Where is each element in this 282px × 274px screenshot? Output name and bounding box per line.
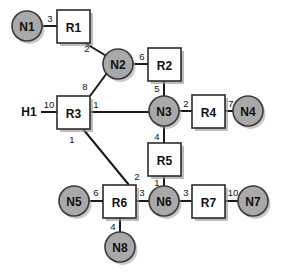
port-label-p-r4-2: 2	[183, 98, 188, 109]
router-R2: R2	[148, 48, 184, 84]
port-label-p-r2-5: 5	[154, 83, 159, 94]
router-label: R1	[66, 21, 82, 35]
router-R1: R1	[57, 10, 93, 46]
hosts-layer: H1	[21, 105, 37, 119]
node-N1: N1	[12, 11, 45, 44]
port-label-p-r6-4: 4	[110, 221, 115, 232]
router-label: R2	[157, 59, 173, 73]
node-N4: N4	[233, 96, 266, 129]
port-label-p-r3-1: 1	[93, 99, 98, 110]
port-label-p-r6-6: 6	[93, 187, 98, 198]
port-label-p-r4-7: 7	[228, 98, 233, 109]
node-label: N8	[112, 241, 128, 255]
port-label-p-r2-6: 6	[139, 51, 144, 62]
port-label-p-r7-3: 3	[183, 187, 188, 198]
router-R6: R6	[103, 185, 139, 221]
node-label: N6	[156, 195, 172, 209]
network-topology-diagram: R1R2R3R4R5R6R7 N1N2N3N4N5N6N7N8 H1 32658…	[0, 0, 282, 274]
router-R3: R3	[57, 96, 93, 132]
port-label-p-r1-2: 2	[84, 43, 89, 54]
node-N3: N3	[149, 96, 182, 129]
router-R4: R4	[192, 95, 228, 131]
node-N2: N2	[103, 49, 136, 82]
link-R3-R6	[83, 129, 129, 185]
port-label-p-r7-10: 10	[228, 187, 239, 198]
node-label: N3	[156, 105, 172, 119]
node-label: N7	[245, 195, 261, 209]
port-label-p-r5-1: 1	[154, 177, 159, 188]
router-R5: R5	[148, 143, 184, 179]
node-N6: N6	[149, 186, 182, 219]
topology-canvas: R1R2R3R4R5R6R7 N1N2N3N4N5N6N7N8 H1 32658…	[0, 0, 282, 274]
port-label-p-r1-3: 3	[47, 13, 52, 24]
node-label: N2	[110, 58, 126, 72]
port-label-p-r3-10: 10	[44, 99, 55, 110]
port-label-p-r6-2: 2	[134, 171, 139, 182]
port-label-p-r6-3: 3	[139, 187, 144, 198]
link-N2-R3	[90, 73, 107, 96]
node-N7: N7	[238, 186, 271, 219]
node-label: N1	[19, 20, 35, 34]
host-label-H1: H1	[21, 105, 37, 119]
node-label: N5	[66, 195, 82, 209]
router-label: R6	[112, 196, 128, 210]
port-label-p-r3-8: 8	[82, 81, 87, 92]
router-label: R4	[201, 106, 217, 120]
router-R7: R7	[192, 185, 228, 221]
router-label: R5	[157, 154, 173, 168]
port-label-p-r3-1b: 1	[69, 134, 74, 145]
node-label: N4	[240, 105, 256, 119]
node-N8: N8	[105, 232, 138, 265]
router-label: R7	[201, 196, 217, 210]
router-label: R3	[66, 107, 82, 121]
nodes-layer: N1N2N3N4N5N6N7N8	[12, 11, 271, 265]
port-label-p-r5-4: 4	[154, 131, 159, 142]
node-N5: N5	[59, 186, 92, 219]
